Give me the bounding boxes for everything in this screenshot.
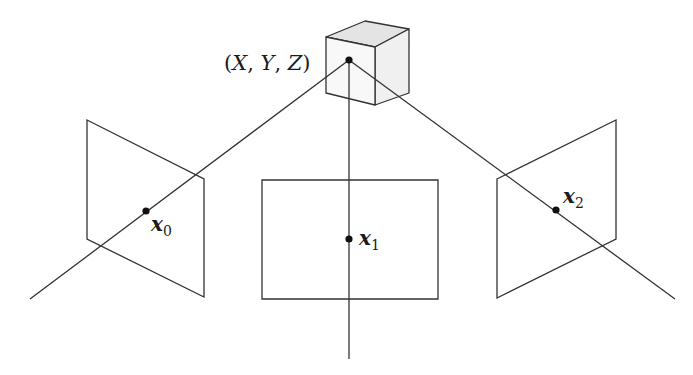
multi-view-diagram: (X, Y, Z) x0 x1 x2 [0, 0, 693, 375]
x2-point-dot [552, 206, 559, 213]
world-point-dot [345, 56, 352, 63]
cube-object [326, 21, 409, 105]
x1-point-dot [345, 235, 352, 242]
x0-point-dot [142, 207, 149, 214]
world-point-label: (X, Y, Z) [224, 51, 311, 75]
